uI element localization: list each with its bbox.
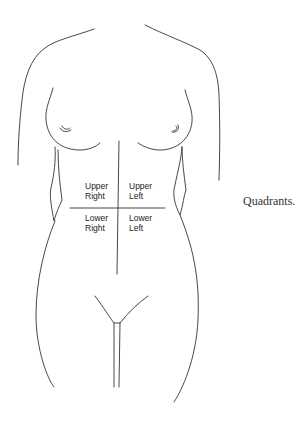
label-upper-left-line1: Upper xyxy=(129,181,152,191)
left-hip-outline xyxy=(174,215,198,402)
body-outline-drawing xyxy=(0,0,308,421)
figure-caption: Quadrants. xyxy=(243,194,295,209)
label-lower-left-line1: Lower xyxy=(129,213,152,223)
label-lower-left: Lower Left xyxy=(129,213,152,233)
right-nipple xyxy=(62,126,70,129)
label-upper-left: Upper Left xyxy=(129,181,152,201)
left-breast-outline xyxy=(138,90,192,150)
abdominal-quadrants-figure: Upper Right Upper Left Lower Right Lower… xyxy=(0,0,308,421)
left-nipple xyxy=(173,126,177,131)
vertical-midline xyxy=(117,141,119,274)
label-upper-right-line1: Upper xyxy=(85,181,108,191)
right-waist-outline xyxy=(50,147,62,221)
right-breast-outline xyxy=(46,88,100,150)
label-upper-left-line2: Left xyxy=(129,191,152,201)
right-hip-outline xyxy=(36,221,55,387)
groin-outline xyxy=(95,296,148,323)
label-lower-right-line2: Right xyxy=(85,223,108,233)
label-upper-right-line2: Right xyxy=(85,191,108,201)
inner-thigh-left xyxy=(119,323,120,387)
label-lower-left-line2: Left xyxy=(129,223,152,233)
label-lower-right-line1: Lower xyxy=(85,213,108,223)
right-shoulder-arm-outline xyxy=(18,29,94,165)
label-upper-right: Upper Right xyxy=(85,181,108,201)
left-waist-outline xyxy=(174,147,186,215)
label-lower-right: Lower Right xyxy=(85,213,108,233)
